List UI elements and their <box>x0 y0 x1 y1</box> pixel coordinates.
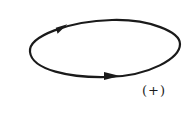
arrow-bottom-icon <box>104 72 120 80</box>
closed-loop-curve <box>30 20 180 77</box>
orientation-label: (+) <box>134 82 174 100</box>
